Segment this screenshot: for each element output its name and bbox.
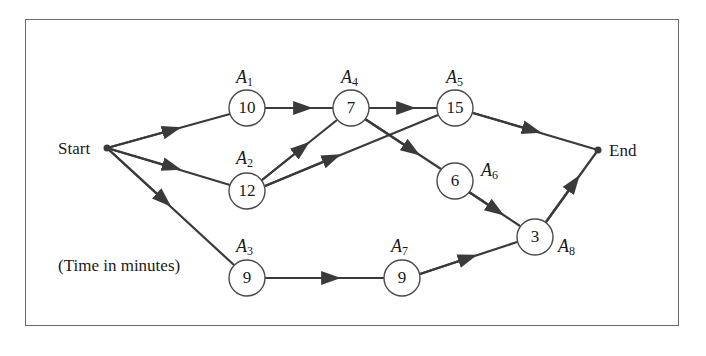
node-a3-label: A3: [236, 236, 253, 259]
network-edges: [0, 0, 706, 356]
node-a6-time: 6: [437, 171, 473, 191]
node-a8-time: 3: [517, 227, 553, 247]
node-a1-label: A1: [236, 67, 253, 90]
node-a1-time: 10: [229, 98, 265, 118]
start-node-dot: [104, 145, 111, 152]
time-unit-note: (Time in minutes): [58, 256, 180, 276]
node-a2-label: A2: [236, 148, 253, 171]
node-a3-time: 9: [229, 268, 265, 288]
start-label: Start: [58, 139, 90, 159]
node-a4-time: 7: [333, 98, 369, 118]
node-a6-label: A6: [481, 160, 498, 183]
node-a7-label: A7: [391, 236, 408, 259]
node-a5-time: 15: [437, 98, 473, 118]
end-node-dot: [595, 147, 602, 154]
node-a4-label: A4: [341, 67, 358, 90]
node-a7-time: 9: [384, 268, 420, 288]
node-a2-time: 12: [229, 181, 265, 201]
node-a5-label: A5: [446, 67, 463, 90]
end-label: End: [609, 141, 636, 161]
node-a8-label: A8: [558, 236, 575, 259]
